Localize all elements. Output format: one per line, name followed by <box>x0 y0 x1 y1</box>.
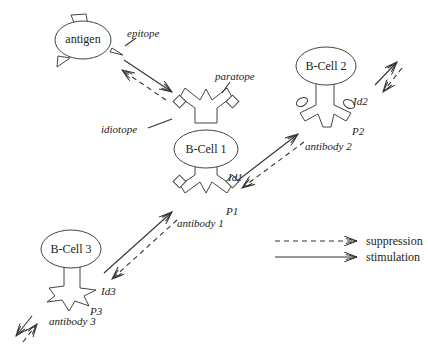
id2-shape-left <box>295 96 309 109</box>
p1-label: P1 <box>225 205 238 217</box>
upper-antibody-shape <box>180 88 232 123</box>
bcell3-node: B-Cell 3 <box>41 230 101 311</box>
arrow-suppression-bcell3-incoming <box>23 324 37 342</box>
antigen-label: antigen <box>65 32 100 46</box>
id3-label: Id3 <box>100 285 116 297</box>
id2-label: Id2 <box>352 95 368 107</box>
paratope-label: paratope <box>214 70 255 82</box>
legend: suppression stimulation <box>275 234 423 264</box>
idiotope-label: idiotope <box>101 123 137 135</box>
antibody2-shape <box>300 83 351 127</box>
idiotypic-network-diagram: antigen epitope B-Cell 1 paratope idioto… <box>0 0 428 355</box>
arrow-suppression-bcell2-to-bcell1 <box>242 142 304 188</box>
antibody2-label: antibody 2 <box>305 140 352 152</box>
bcell2-node: B-Cell 2 <box>295 47 356 127</box>
epitope-shape-right <box>110 48 123 55</box>
arrow-stimulation-bcell2-outgoing <box>375 62 397 85</box>
antibody3-shape <box>47 265 96 311</box>
arrow-stimulation-bcell3-to-bcell1 <box>104 212 172 273</box>
legend-stimulation-label: stimulation <box>366 250 420 264</box>
legend-suppression-label: suppression <box>366 234 423 248</box>
epitope-pointer <box>125 38 136 46</box>
bcell3-label: B-Cell 3 <box>51 242 92 256</box>
idiotope-pointer <box>148 119 172 128</box>
arrow-suppression-bcell1-to-bcell3 <box>112 220 177 279</box>
bcell1-label: B-Cell 1 <box>186 142 227 156</box>
id1-label: Id1 <box>227 171 243 183</box>
antibody3-label: antibody 3 <box>49 315 96 327</box>
antigen-node: antigen <box>55 14 123 67</box>
arrow-suppression-bcell2-incoming <box>383 68 402 92</box>
epitope-shape-left <box>57 56 70 67</box>
p2-label: P2 <box>351 125 365 137</box>
epitope-label: epitope <box>127 27 159 39</box>
arrow-stimulation-bcell1-to-bcell2 <box>237 134 298 181</box>
bcell2-label: B-Cell 2 <box>306 59 347 73</box>
antibody1-label: antibody 1 <box>177 217 224 229</box>
arrow-suppression-bcell1-to-antigen <box>122 70 166 100</box>
